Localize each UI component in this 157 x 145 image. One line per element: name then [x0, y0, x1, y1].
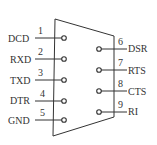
pin-label: RXD: [10, 54, 31, 65]
left-pin-5: GND 5: [8, 107, 66, 126]
pin-number: 4: [40, 88, 45, 99]
pin-contact-icon: [62, 36, 67, 41]
pin-label: GND: [8, 115, 30, 126]
pin-label: CTS: [128, 86, 146, 97]
right-pin-8: 8 CTS: [97, 78, 147, 97]
right-pin-6: 6 DSR: [97, 36, 148, 54]
pin-number: 9: [118, 99, 123, 110]
pin-contact-icon: [62, 78, 67, 83]
pin-number: 3: [38, 67, 43, 78]
pin-number: 8: [118, 78, 123, 89]
pin-label: TXD: [10, 75, 31, 86]
left-pin-2: RXD 2: [10, 46, 66, 65]
pin-number: 5: [40, 107, 45, 118]
pin-label: DTR: [10, 95, 30, 106]
pin-number: 6: [118, 36, 123, 47]
pin-label: RI: [128, 106, 138, 117]
pin-number: 7: [118, 57, 123, 68]
pin-contact-icon: [97, 89, 102, 94]
pin-contact-icon: [97, 68, 102, 73]
left-pin-4: DTR 4: [10, 88, 66, 106]
left-pin-1: DCD 1: [8, 25, 66, 44]
pin-label: RTS: [128, 65, 146, 76]
right-pin-7: 7 RTS: [97, 57, 146, 76]
right-pin-9: 9 RI: [97, 99, 138, 117]
pin-contact-icon: [97, 110, 102, 115]
pin-contact-icon: [62, 57, 67, 62]
left-pin-3: TXD 3: [10, 67, 66, 86]
pin-label: DSR: [128, 43, 148, 54]
pin-contact-icon: [62, 118, 67, 123]
pin-label: DCD: [8, 33, 29, 44]
pin-number: 1: [38, 25, 43, 36]
db9-connector-diagram: DCD 1 RXD 2 TXD 3 DTR 4 GND 5 6 DSR 7: [0, 0, 157, 145]
pin-contact-icon: [62, 99, 67, 104]
pin-contact-icon: [97, 47, 102, 52]
pin-number: 2: [38, 46, 43, 57]
